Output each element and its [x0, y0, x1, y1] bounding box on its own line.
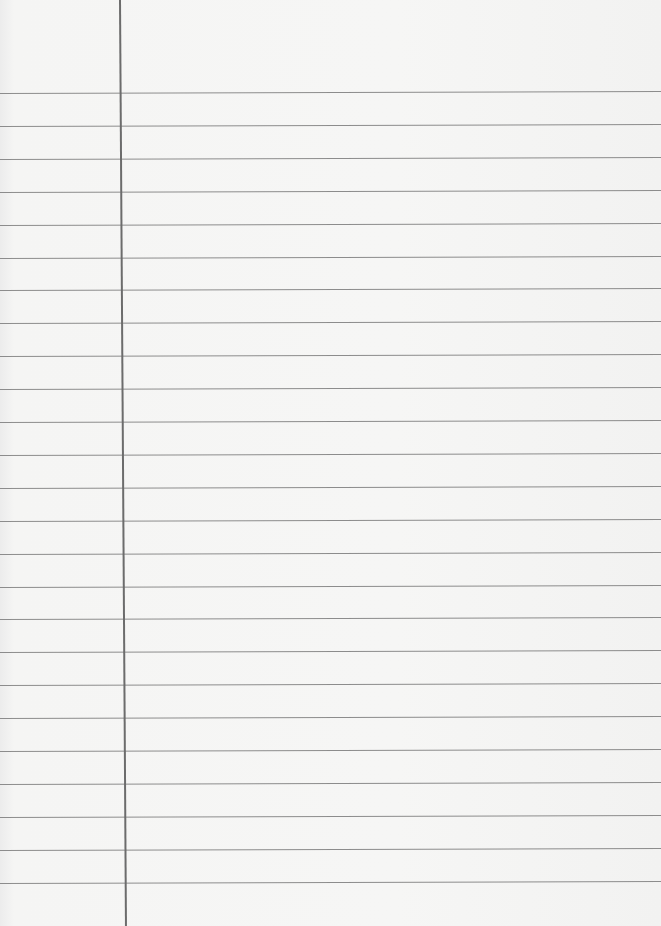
- ruled-line: [0, 453, 661, 456]
- ruled-line: [0, 749, 661, 752]
- ruled-line: [0, 617, 661, 620]
- margin-line: [119, 0, 126, 926]
- ruled-line: [0, 585, 661, 588]
- ruled-line: [0, 420, 661, 423]
- ruled-line: [0, 190, 661, 193]
- ruled-line: [0, 387, 661, 390]
- ruled-line: [0, 782, 661, 785]
- ruled-line: [0, 815, 661, 818]
- ruled-line: [0, 157, 661, 160]
- ruled-line: [0, 288, 661, 291]
- ruled-line: [0, 848, 661, 851]
- ruled-line: [0, 552, 661, 555]
- ruled-line: [0, 256, 661, 259]
- ruled-line: [0, 716, 661, 719]
- ruled-line: [0, 486, 661, 489]
- ruled-line: [0, 223, 661, 226]
- ruled-line: [0, 650, 661, 653]
- lined-paper-sheet: [0, 0, 661, 926]
- ruled-line: [0, 519, 661, 522]
- ruled-line: [0, 124, 661, 127]
- ruled-line: [0, 91, 661, 94]
- ruled-line: [0, 354, 661, 357]
- ruled-line: [0, 881, 661, 884]
- ruled-line: [0, 683, 661, 686]
- ruled-line: [0, 321, 661, 324]
